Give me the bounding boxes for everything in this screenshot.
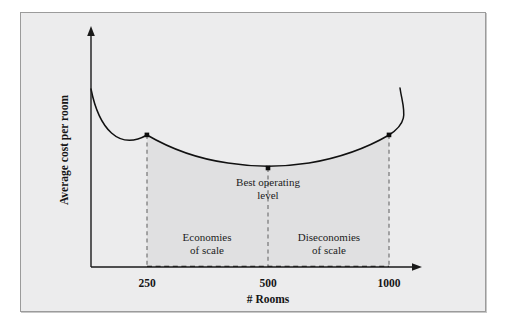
annotation-best-operating-level-line1: Best operating xyxy=(236,176,300,188)
y-axis-title: Average cost per room xyxy=(58,94,71,205)
chart-frame: Best operating level Economies of scale … xyxy=(20,12,486,312)
cost-curve-chart: Best operating level Economies of scale … xyxy=(21,13,485,311)
marker-point-1000 xyxy=(387,133,392,138)
marker-point-500 xyxy=(266,166,271,171)
x-tick-label-500: 500 xyxy=(259,277,277,289)
x-tick-label-250: 250 xyxy=(138,277,156,289)
figure-canvas: Best operating level Economies of scale … xyxy=(0,0,507,331)
annotation-diseconomies-of-scale-line2: of scale xyxy=(312,244,346,256)
annotation-diseconomies-of-scale-line1: Diseconomies xyxy=(298,231,360,243)
x-axis-title: # Rooms xyxy=(247,293,290,305)
annotation-economies-of-scale-line1: Economies xyxy=(183,231,232,243)
annotation-economies-of-scale-line2: of scale xyxy=(190,244,224,256)
x-tick-label-1000: 1000 xyxy=(378,277,401,289)
annotation-best-operating-level-line2: level xyxy=(257,189,278,201)
y-axis-arrow-icon xyxy=(87,26,95,36)
x-axis-arrow-icon xyxy=(412,263,422,271)
marker-point-250 xyxy=(145,133,150,138)
